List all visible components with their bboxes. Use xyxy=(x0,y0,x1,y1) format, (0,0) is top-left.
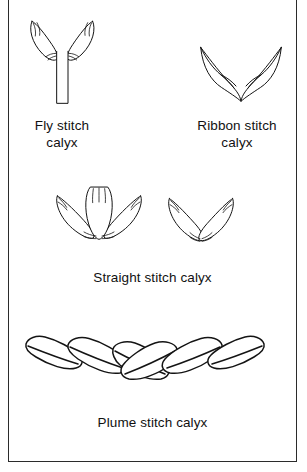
ribbon-stitch-calyx-label: Ribbon stitch calyx xyxy=(178,118,296,151)
straight-stitch-calyx-two-petal-icon xyxy=(164,190,238,246)
fly-stitch-calyx-label: Fly stitch calyx xyxy=(8,118,116,151)
ribbon-stitch-calyx-icon xyxy=(196,44,286,112)
plume-stitch-calyx-label: Plume stitch calyx xyxy=(8,415,297,432)
straight-stitch-calyx-label: Straight stitch calyx xyxy=(8,270,297,287)
figure-page: Fly stitch calyx Ribbon stitch calyx xyxy=(0,0,307,472)
fly-stitch-calyx-icon xyxy=(22,14,102,114)
straight-stitch-calyx-three-petal-icon xyxy=(52,184,146,246)
plume-stitch-calyx-icon xyxy=(20,326,270,392)
